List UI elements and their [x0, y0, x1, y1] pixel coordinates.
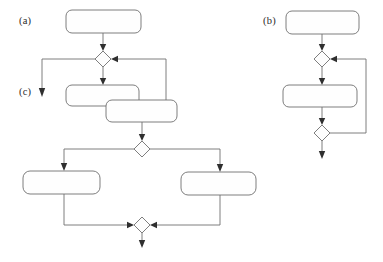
arrowhead-down-a1 [100, 44, 106, 51]
action-node-a-1[interactable] [66, 10, 141, 33]
decision-node-a-fork-1[interactable] [134, 141, 150, 157]
action-node-a-4[interactable] [23, 171, 100, 194]
arrowhead-left-a-merge2 [150, 222, 157, 228]
arrowhead-down-b2 [319, 78, 325, 85]
arrowhead-down-a-fork [139, 134, 145, 141]
panel-label-a: (a) [19, 15, 31, 26]
arrowhead-down-a5 [217, 164, 223, 172]
edge-a-action5-to-merge2 [155, 195, 220, 225]
decision-node-b-merge-1[interactable] [314, 51, 330, 67]
arrowhead-down-c-exit [39, 88, 45, 97]
action-node-a-3[interactable] [106, 100, 177, 122]
arrowhead-down-b1 [319, 44, 325, 51]
activity-diagram-canvas [0, 0, 383, 262]
action-node-a-5[interactable] [181, 172, 256, 195]
arrowhead-down-a2 [100, 78, 106, 85]
edge-a-fork1-to-action5 [150, 149, 220, 167]
decision-node-a-merge-2[interactable] [134, 217, 150, 233]
panel-b [283, 11, 366, 159]
arrowhead-down-b3 [319, 118, 325, 125]
arrowhead-left-b-feedback [330, 56, 337, 62]
panel-a [23, 10, 256, 248]
panel-a-edges [39, 33, 223, 248]
arrowhead-down-a-exit [139, 240, 145, 248]
panel-label-b: (b) [263, 15, 276, 26]
arrowhead-down-b-exit [319, 151, 325, 159]
panel-label-c: (c) [19, 86, 31, 97]
edge-a-action4-to-merge2 [64, 194, 129, 225]
action-node-b-2[interactable] [283, 85, 357, 107]
arrowhead-down-a4 [61, 163, 67, 171]
arrowhead-right-a-merge2 [127, 222, 134, 228]
arrowhead-left-a-feedback [111, 56, 118, 62]
decision-node-a-merge-1[interactable] [95, 51, 111, 67]
decision-node-b-merge-2[interactable] [314, 125, 330, 141]
figure-root: (a) (b) (c) [0, 0, 383, 262]
action-node-b-1[interactable] [286, 11, 359, 34]
edge-a-fork1-to-action4 [64, 149, 134, 166]
